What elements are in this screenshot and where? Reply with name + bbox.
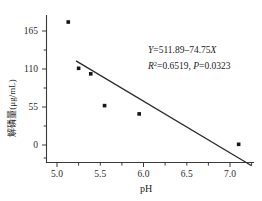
x-tick-label-3: 6.5 bbox=[181, 169, 193, 179]
chart-canvas: 165 110 55 0 解磷量(μg/mL) 5.0 5.5 6.0 6.5 … bbox=[0, 0, 262, 201]
x-tick-label-0: 5.0 bbox=[51, 169, 63, 179]
scatter-plot-figure: 165 110 55 0 解磷量(μg/mL) 5.0 5.5 6.0 6.5 … bbox=[0, 0, 262, 201]
y-tick-label-3: 0 bbox=[33, 140, 38, 150]
x-tick-label-1: 5.5 bbox=[94, 169, 106, 179]
data-point-3 bbox=[103, 104, 107, 108]
stats-r-value: =0.6519, bbox=[157, 61, 193, 71]
stats-annotation: R2=0.6519, P=0.0323 bbox=[147, 60, 231, 72]
y-tick-label-1: 110 bbox=[24, 64, 38, 74]
x-axis-ticks bbox=[57, 163, 252, 168]
data-point-2 bbox=[89, 72, 93, 76]
x-axis-title: pH bbox=[140, 183, 152, 194]
x-tick-label-2: 6.0 bbox=[138, 169, 150, 179]
x-tick-label-4: 7.0 bbox=[224, 169, 236, 179]
data-point-4 bbox=[137, 112, 141, 116]
y-axis-title: 解磷量(μg/mL) bbox=[6, 79, 17, 136]
y-tick-label-0: 165 bbox=[24, 26, 39, 36]
data-point-1 bbox=[77, 67, 81, 71]
data-points-group bbox=[66, 20, 240, 146]
y-tick-label-2: 55 bbox=[29, 102, 39, 112]
equation-annotation: Y=511.89–74.75X bbox=[148, 45, 218, 55]
equation-x-symbol: X bbox=[210, 45, 218, 55]
data-point-5 bbox=[237, 143, 241, 147]
regression-fit-line bbox=[76, 61, 252, 166]
data-point-0 bbox=[66, 20, 70, 24]
stats-p-value: =0.0323 bbox=[199, 61, 231, 71]
y-axis-ticks bbox=[42, 31, 47, 158]
equation-body: =511.89–74.75 bbox=[153, 45, 211, 55]
